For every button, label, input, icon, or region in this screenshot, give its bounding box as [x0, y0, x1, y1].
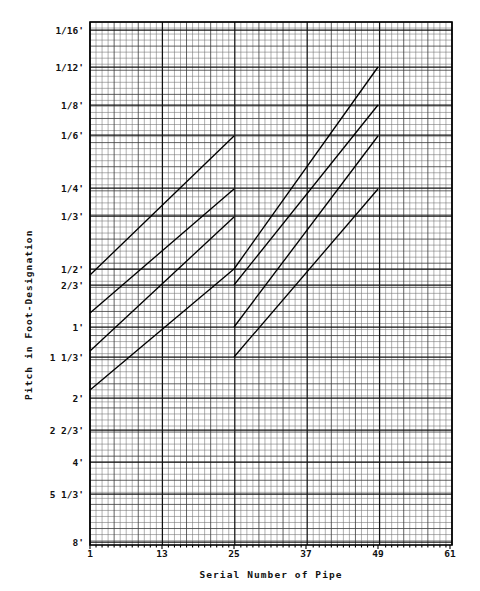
- x-axis-tick-label: 49: [372, 548, 384, 559]
- y-axis-tick-label: 1/6': [61, 130, 84, 141]
- y-axis-tick-label: 4': [73, 457, 84, 468]
- y-axis-tick-label: 1/16': [55, 25, 84, 36]
- y-axis-tick-label: 2': [73, 393, 84, 404]
- pitch-chart-figure: 1/16'1/12'1/8'1/6'1/4'1/3'1/2'2/3'1'1 1/…: [0, 0, 480, 591]
- x-axis-title: Serial Number of Pipe: [199, 569, 342, 580]
- y-axis-tick-label: 1/12': [55, 62, 84, 73]
- y-axis-tick-label: 1 1/3': [50, 352, 84, 363]
- y-axis-tick-label: 5 1/3': [50, 489, 84, 500]
- x-axis-tick-label: 37: [300, 548, 311, 559]
- x-axis-tick-label: 13: [156, 548, 168, 559]
- y-axis-tick-label: 1/4': [61, 183, 84, 194]
- y-axis-tick-label: 1/8': [61, 100, 84, 111]
- x-axis-tick-label: 1: [87, 548, 93, 559]
- minor-gridlines: [90, 22, 452, 545]
- y-axis-tick-label: 1/2': [61, 264, 84, 275]
- x-axis-tick-label: 25: [228, 548, 240, 559]
- chart-canvas: 1/16'1/12'1/8'1/6'1/4'1/3'1/2'2/3'1'1 1/…: [0, 0, 480, 591]
- y-axis-tick-label: 1': [73, 322, 84, 333]
- y-axis-tick-label: 2 2/3': [50, 425, 84, 436]
- y-axis-tick-label: 2/3': [61, 280, 84, 291]
- x-axis-tick-label: 61: [444, 548, 456, 559]
- y-axis-tick-label: 8': [73, 537, 84, 548]
- y-axis-tick-label: 1/3': [61, 211, 84, 222]
- y-axis-title: Pitch in Foot-Designation: [23, 230, 34, 401]
